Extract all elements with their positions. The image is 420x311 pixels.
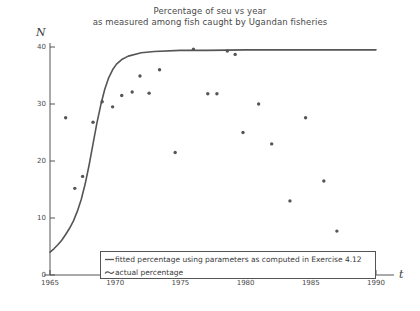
- chart-figure: Percentage of seu vs year as measured am…: [0, 0, 420, 311]
- data-point: [111, 105, 114, 108]
- data-point: [158, 68, 161, 71]
- data-point: [73, 187, 76, 190]
- data-point: [130, 90, 133, 93]
- legend-label-fitted: fitted percentage using parameters as co…: [115, 255, 362, 264]
- data-point: [206, 92, 209, 95]
- x-tick-label-1970: 1970: [95, 279, 135, 287]
- data-point: [120, 94, 123, 97]
- fitted-curve-0: [50, 50, 376, 252]
- data-point: [233, 53, 236, 56]
- data-point: [335, 229, 338, 232]
- legend-label-actual: actual percentage: [115, 268, 183, 277]
- legend-item-actual: actual percentage: [101, 266, 375, 279]
- data-point: [81, 175, 84, 178]
- line-marker-icon: [104, 254, 115, 265]
- y-tick-label-0: 0: [24, 271, 46, 279]
- x-tick-label-1980: 1980: [226, 279, 266, 287]
- data-point: [304, 116, 307, 119]
- data-point: [64, 116, 67, 119]
- data-point: [226, 49, 229, 52]
- data-point: [147, 91, 150, 94]
- data-point: [192, 48, 195, 51]
- chart-legend: fitted percentage using parameters as co…: [100, 251, 376, 279]
- x-tick-label-1975: 1975: [160, 279, 200, 287]
- data-point: [138, 74, 141, 77]
- data-point: [257, 102, 260, 105]
- dot-marker-icon: [104, 267, 115, 278]
- y-tick-label-30: 30: [24, 100, 46, 108]
- x-tick-label-1990: 1990: [356, 279, 396, 287]
- data-point: [91, 121, 94, 124]
- y-tick-label-40: 40: [24, 43, 46, 51]
- data-point: [100, 100, 103, 103]
- data-point: [215, 92, 218, 95]
- data-point: [288, 199, 291, 202]
- data-point: [173, 151, 176, 154]
- data-point: [322, 179, 325, 182]
- y-tick-label-10: 10: [24, 214, 46, 222]
- y-tick-label-20: 20: [24, 157, 46, 165]
- x-tick-label-1965: 1965: [30, 279, 70, 287]
- legend-item-fitted: fitted percentage using parameters as co…: [101, 253, 375, 266]
- x-tick-label-1985: 1985: [291, 279, 331, 287]
- data-point: [241, 131, 244, 134]
- data-point: [270, 142, 273, 145]
